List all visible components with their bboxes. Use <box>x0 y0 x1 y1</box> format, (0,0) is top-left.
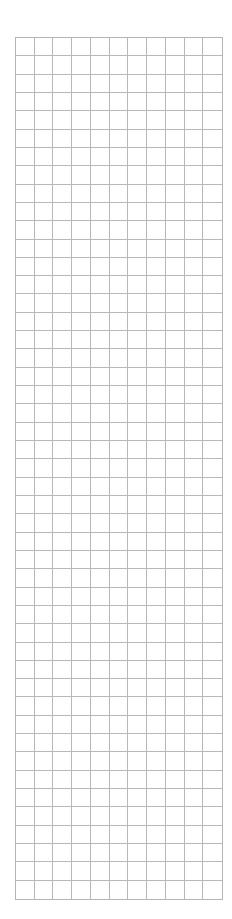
grid-cell <box>35 203 54 221</box>
grid-cell <box>166 478 185 496</box>
grid-cell <box>203 203 222 221</box>
grid-cell <box>110 752 129 770</box>
grid-cell <box>35 130 54 148</box>
grid-cell <box>128 75 147 93</box>
grid-cell <box>35 258 54 276</box>
grid-cell <box>147 294 166 312</box>
grid-cell <box>166 697 185 715</box>
grid-cell <box>91 368 110 386</box>
grid-cell <box>16 441 35 459</box>
grid-cell <box>128 368 147 386</box>
grid-cell <box>16 93 35 111</box>
grid-cell <box>35 643 54 661</box>
grid-cell <box>166 75 185 93</box>
grid-cell <box>128 148 147 166</box>
grid-cell <box>203 514 222 532</box>
grid-cell <box>16 844 35 862</box>
grid-cell <box>147 258 166 276</box>
grid-cell <box>53 643 72 661</box>
grid-cell <box>185 881 204 899</box>
grid-cell <box>166 807 185 825</box>
grid-cell <box>166 551 185 569</box>
grid-cell <box>53 697 72 715</box>
grid-cell <box>110 368 129 386</box>
grid-cell <box>110 606 129 624</box>
grid-cell <box>203 569 222 587</box>
grid-cell <box>16 734 35 752</box>
grid-cell <box>16 496 35 514</box>
grid-cell <box>203 294 222 312</box>
grid-cell <box>16 38 35 56</box>
grid-cell <box>91 752 110 770</box>
grid-cell <box>147 148 166 166</box>
grid-cell <box>128 734 147 752</box>
grid-cell <box>91 203 110 221</box>
grid-cell <box>53 716 72 734</box>
grid-cell <box>166 56 185 74</box>
grid-cell <box>91 716 110 734</box>
grid-cell <box>72 844 91 862</box>
grid-cell <box>147 130 166 148</box>
grid-cell <box>128 826 147 844</box>
grid-cell <box>110 203 129 221</box>
grid-cell <box>185 368 204 386</box>
grid-cell <box>128 844 147 862</box>
grid-cell <box>35 844 54 862</box>
grid-cell <box>16 313 35 331</box>
grid-cell <box>203 349 222 367</box>
grid-cell <box>185 679 204 697</box>
grid-cell <box>91 697 110 715</box>
grid-cell <box>53 771 72 789</box>
grid-cell <box>35 386 54 404</box>
grid-cell <box>72 826 91 844</box>
grid-cell <box>203 606 222 624</box>
grid-cell <box>185 404 204 422</box>
grid-cell <box>91 551 110 569</box>
grid-cell <box>91 514 110 532</box>
grid-cell <box>91 807 110 825</box>
grid-cell <box>128 496 147 514</box>
grid-cell <box>91 771 110 789</box>
grid-cell <box>203 862 222 880</box>
grid-cell <box>128 551 147 569</box>
grid-cell <box>72 716 91 734</box>
grid-cell <box>128 349 147 367</box>
grid-cell <box>53 294 72 312</box>
grid-cell <box>16 294 35 312</box>
grid-cell <box>110 826 129 844</box>
grid-cell <box>72 478 91 496</box>
grid-cell <box>91 93 110 111</box>
grid-cell <box>203 368 222 386</box>
grid-cell <box>203 441 222 459</box>
grid-cell <box>185 826 204 844</box>
grid-cell <box>53 533 72 551</box>
grid-cell <box>185 331 204 349</box>
grid-cell <box>35 111 54 129</box>
grid-cell <box>72 148 91 166</box>
grid-cell <box>91 844 110 862</box>
grid-cell <box>128 331 147 349</box>
grid-cell <box>53 38 72 56</box>
grid-cell <box>91 459 110 477</box>
grid-cell <box>166 221 185 239</box>
grid-cell <box>203 75 222 93</box>
grid-cell <box>147 404 166 422</box>
grid-cell <box>72 771 91 789</box>
grid-cell <box>166 533 185 551</box>
grid-cell <box>185 624 204 642</box>
grid-cell <box>72 551 91 569</box>
grid-cell <box>16 331 35 349</box>
grid-cell <box>53 606 72 624</box>
grid-cell <box>91 56 110 74</box>
grid-cell <box>16 771 35 789</box>
grid-cell <box>203 697 222 715</box>
grid-cell <box>128 624 147 642</box>
grid-cell <box>110 404 129 422</box>
grid-cell <box>16 404 35 422</box>
grid-cell <box>53 75 72 93</box>
grid-cell <box>72 643 91 661</box>
grid-cell <box>53 881 72 899</box>
grid-cell <box>166 38 185 56</box>
grid-cell <box>110 313 129 331</box>
grid-cell <box>72 881 91 899</box>
